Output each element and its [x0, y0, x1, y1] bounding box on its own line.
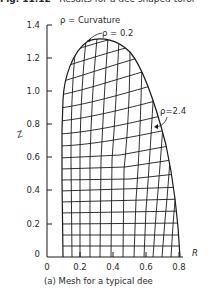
y-tick-0-6: 0.6 [26, 152, 40, 162]
x-tick-0-6: 0.6 [139, 262, 153, 272]
arrowhead-icon [154, 124, 158, 129]
y-tick-1-4: 1.4 [26, 20, 40, 30]
axes [47, 25, 183, 257]
x-tick-0-4: 0.4 [106, 262, 120, 272]
y-axis-label: Z [14, 128, 24, 140]
y-tick-0: 0 [35, 249, 40, 259]
y-tick-0-8: 0.8 [26, 119, 40, 129]
mesh-figure: 1.4 1.2 1.0 0.8 0.6 0.4 0.2 0 Z 0 0.2 0.… [0, 0, 216, 301]
rho-0-2-label: ρ = 0.2 [102, 28, 133, 38]
y-tick-0-4: 0.4 [26, 185, 40, 195]
x-tick-labels: 0 0.2 0.4 0.6 0.8 [44, 262, 185, 272]
x-axis-label: R [192, 248, 198, 258]
figure-caption: (a) Mesh for a typical dee [44, 276, 153, 286]
y-tick-1-2: 1.2 [26, 53, 40, 63]
mesh-grid [60, 20, 185, 257]
rho-2-4-label: ρ=2.4 [160, 106, 186, 116]
y-tick-labels: 1.4 1.2 1.0 0.8 0.6 0.4 0.2 0 [26, 20, 40, 259]
x-tick-0-2: 0.2 [73, 262, 87, 272]
y-tick-0-2: 0.2 [26, 219, 40, 229]
y-tick-1-0: 1.0 [26, 86, 40, 96]
x-tick-0-8: 0.8 [172, 262, 186, 272]
curvature-legend: ρ = Curvature [60, 15, 120, 25]
x-tick-0: 0 [44, 262, 49, 272]
